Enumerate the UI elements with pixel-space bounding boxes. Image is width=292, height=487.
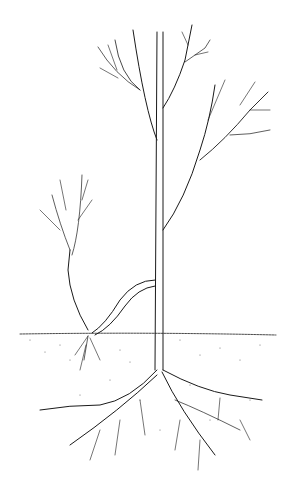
new-shoot	[40, 175, 92, 330]
upper-branches	[98, 25, 270, 230]
new-roots	[75, 336, 100, 370]
bent-layered-branch	[92, 280, 155, 335]
main-roots	[40, 370, 262, 470]
main-trunk	[155, 32, 163, 370]
soil-surface	[20, 333, 276, 335]
soil-stipple	[30, 340, 261, 431]
illustration-canvas: tree layering propagation line drawing	[0, 0, 292, 487]
tree-layering-drawing	[0, 0, 292, 487]
